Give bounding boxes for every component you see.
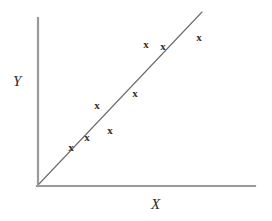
data-point-marker: x — [84, 131, 90, 143]
x-axis-label: X — [151, 197, 160, 212]
data-point-marker: x — [132, 87, 138, 99]
data-point-marker: x — [94, 99, 100, 111]
plot-canvas: x x x x x x x x — [0, 0, 272, 221]
data-point-marker: x — [143, 38, 149, 50]
scatter-plot-figure: x x x x x x x x Y X — [0, 0, 272, 221]
data-point-marker: x — [68, 141, 74, 153]
data-point-marker: x — [196, 31, 202, 43]
data-point-marker: x — [107, 124, 113, 136]
y-axis-label: Y — [13, 74, 21, 89]
data-point-marker: x — [160, 40, 166, 52]
regression-line — [39, 12, 202, 184]
